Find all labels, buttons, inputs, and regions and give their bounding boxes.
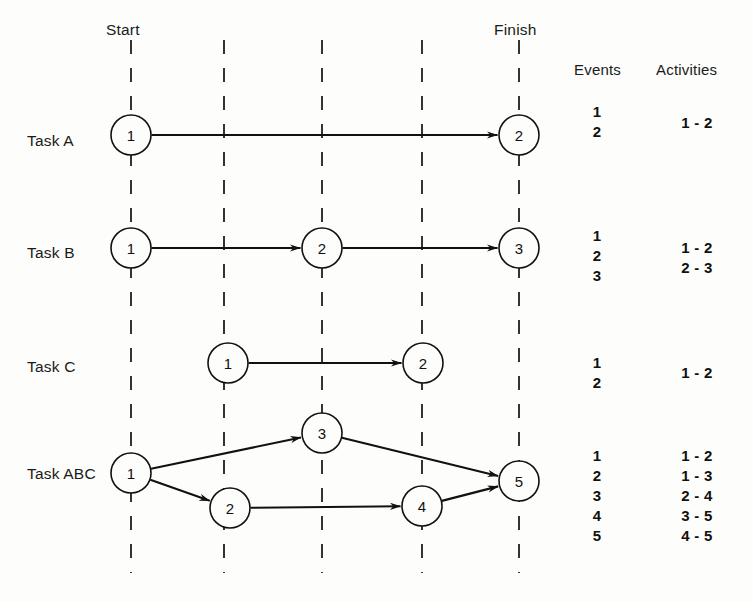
activities-item: 1 - 2 (669, 115, 725, 130)
activities-item: 3 - 5 (669, 508, 725, 523)
event-node-label-B2: 2 (310, 241, 334, 256)
event-node-label-B3: 3 (507, 241, 531, 256)
start-label: Start (106, 22, 140, 38)
events-item: 2 (585, 248, 609, 263)
event-node-label-A2: 2 (507, 128, 531, 143)
events-item: 3 (585, 488, 609, 503)
event-node-label-D3: 3 (310, 426, 334, 441)
events-item: 3 (585, 268, 609, 283)
arrow-D4-to-D5 (442, 486, 498, 501)
activities-item: 1 - 2 (669, 365, 725, 380)
events-item: 1 (585, 355, 609, 370)
event-nodes (111, 115, 539, 528)
arrow-D2-to-D4 (250, 506, 400, 508)
event-node-label-D1: 1 (119, 466, 143, 481)
events-item: 5 (585, 528, 609, 543)
events-item: 4 (585, 508, 609, 523)
events-column-header: Events (574, 62, 621, 77)
events-item: 1 (585, 448, 609, 463)
events-item: 2 (585, 375, 609, 390)
event-node-label-B1: 1 (119, 241, 143, 256)
finish-label: Finish (494, 22, 537, 38)
activities-item: 2 - 4 (669, 488, 725, 503)
event-node-label-D5: 5 (507, 474, 531, 489)
event-node-label-C2: 2 (411, 356, 435, 371)
task-label-b: Task B (27, 245, 75, 261)
activities-item: 2 - 3 (669, 260, 725, 275)
activities-item: 4 - 5 (669, 528, 725, 543)
activities-item: 1 - 3 (669, 468, 725, 483)
events-item: 2 (585, 124, 609, 139)
activities-column-header: Activities (656, 62, 717, 77)
task-label-a: Task A (27, 133, 74, 149)
task-label-abc: Task ABC (27, 466, 96, 482)
task-label-c: Task C (27, 359, 76, 375)
arrow-D3-to-D5 (342, 438, 498, 476)
events-item: 1 (585, 228, 609, 243)
event-node-label-D2: 2 (218, 501, 242, 516)
event-node-label-A1: 1 (119, 128, 143, 143)
events-item: 1 (585, 104, 609, 119)
figure-canvas: Start Finish Events Activities Task A Ta… (0, 0, 753, 602)
event-node-label-C1: 1 (216, 356, 240, 371)
event-node-label-D4: 4 (410, 499, 434, 514)
events-item: 2 (585, 468, 609, 483)
arrow-D1-to-D3 (151, 437, 301, 468)
activities-item: 1 - 2 (669, 448, 725, 463)
network-diagram-svg (0, 0, 753, 602)
activities-item: 1 - 2 (669, 240, 725, 255)
arrow-D1-to-D2 (150, 480, 209, 501)
